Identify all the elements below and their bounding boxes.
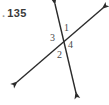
intersecting-lines-diagram [0, 0, 109, 105]
angle-label-2: 2 [57, 50, 62, 60]
angle-label-3: 3 [50, 33, 55, 43]
figure-screenshot: .135 1 3 4 2 [0, 0, 109, 105]
angle-label-4: 4 [68, 40, 73, 50]
angle-label-1: 1 [64, 23, 69, 33]
shallow-line [17, 8, 103, 82]
